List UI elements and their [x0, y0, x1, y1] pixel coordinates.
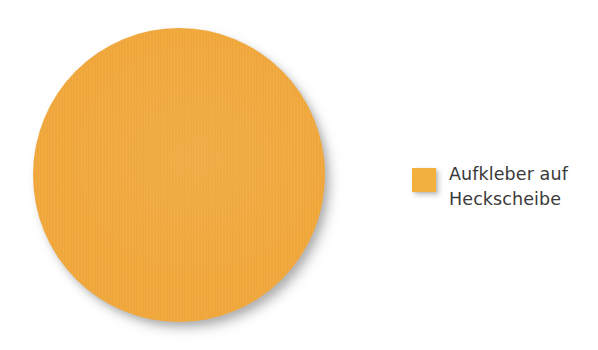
pie-plot-area	[0, 0, 360, 350]
legend-item-label: Aufkleber auf Heckscheibe	[449, 162, 568, 212]
legend-color-swatch-icon	[412, 168, 436, 192]
legend-item-aufkleber-auf-heckscheibe[interactable]: Aufkleber auf Heckscheibe	[412, 162, 568, 212]
chart-legend: Aufkleber auf Heckscheibe	[412, 162, 568, 212]
pie-slice-aufkleber-auf-heckscheibe[interactable]	[33, 28, 325, 322]
pie-chart-figure: Aufkleber auf Heckscheibe	[0, 0, 598, 350]
